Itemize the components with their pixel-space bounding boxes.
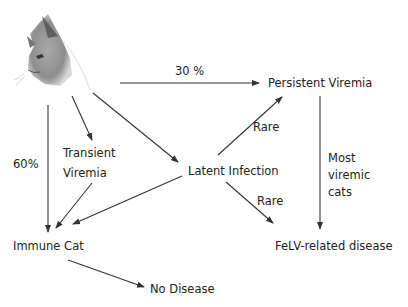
node-transient-viremia: Transient Viremia	[63, 143, 115, 183]
edge-label-60-percent: 60%	[13, 156, 39, 173]
node-immune-cat: Immune Cat	[13, 238, 84, 255]
label-viremic: viremic	[328, 167, 370, 184]
node-transient-line1: Transient	[63, 143, 115, 163]
edge-label-rare-lower: Rare	[257, 193, 283, 210]
edge-label-30-percent: 30 %	[175, 63, 204, 80]
label-cats: cats	[328, 184, 370, 201]
node-persistent-viremia: Persistent Viremia	[268, 75, 372, 92]
edge-latent-to-immune	[73, 176, 182, 224]
label-most: Most	[328, 150, 370, 167]
node-transient-line2: Viremia	[63, 163, 115, 183]
edge-label-rare-upper: Rare	[253, 119, 279, 136]
edge-cat-to-transient	[72, 96, 92, 140]
node-felv-related-disease: FeLV-related disease	[275, 238, 393, 255]
node-latent-infection: Latent Infection	[188, 163, 279, 180]
node-no-disease: No Disease	[150, 281, 215, 298]
edge-immune-to-nodisease	[68, 260, 144, 287]
edge-label-most-viremic-cats: Most viremic cats	[328, 150, 370, 201]
edge-transient-to-immune	[56, 183, 92, 228]
